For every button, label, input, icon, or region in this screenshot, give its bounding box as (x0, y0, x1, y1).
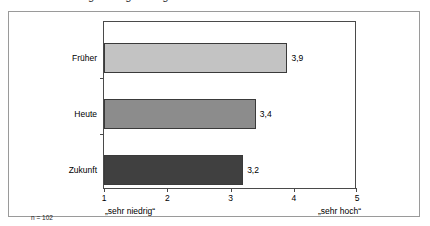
x-axis-tick (167, 188, 168, 192)
figure-frame: Früher 3,9 Heute 3,4 Zukunft 3,2 1 2 3 4… (8, 11, 420, 217)
bar-zukunft[interactable] (104, 155, 243, 185)
bar-value-zukunft: 3,2 (247, 165, 259, 175)
y-axis-tick (100, 134, 104, 135)
x-axis-tick-label: 2 (165, 193, 170, 203)
bar-value-heute: 3,4 (260, 109, 272, 119)
x-axis-tick (104, 188, 105, 192)
clipped-caption-strip: g g g (0, 0, 430, 9)
bar-row: Zukunft 3,2 (104, 155, 357, 185)
x-axis-tick (294, 188, 295, 192)
bar-value-frueher: 3,9 (291, 53, 303, 63)
bar-row: Heute 3,4 (104, 99, 357, 129)
bar-row: Früher 3,9 (104, 43, 357, 73)
scale-anchor-low: „sehr niedrig“ (105, 206, 155, 216)
plot-area: Früher 3,9 Heute 3,4 Zukunft 3,2 1 2 3 4… (103, 21, 356, 189)
sample-size-note: n = 102 (31, 214, 53, 221)
clipped-caption-text: g g g (88, 0, 182, 2)
x-axis-tick-label: 5 (355, 193, 360, 203)
bar-frueher[interactable] (104, 43, 287, 73)
y-axis-tick (100, 78, 104, 79)
category-label-heute: Heute (74, 109, 97, 119)
category-label-zukunft: Zukunft (69, 165, 97, 175)
x-axis-tick-label: 1 (102, 193, 107, 203)
bar-heute[interactable] (104, 99, 256, 129)
x-axis-tick (231, 188, 232, 192)
x-axis-tick-label: 4 (291, 193, 296, 203)
x-axis-tick-label: 3 (228, 193, 233, 203)
scale-anchor-high: „sehr hoch“ (318, 206, 361, 216)
x-axis-tick (356, 188, 357, 192)
category-label-frueher: Früher (72, 53, 97, 63)
